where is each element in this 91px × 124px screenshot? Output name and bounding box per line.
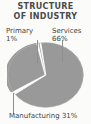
pie-chart xyxy=(7,42,84,108)
leader-line-services xyxy=(62,40,63,62)
slice-label-primary-name: Primary xyxy=(6,27,33,35)
chart-title-line-2: OF INDUSTRY xyxy=(0,12,91,22)
structure-of-industry-pie-figure: STRUCTURE OF INDUSTRY Primary 1% Service… xyxy=(0,0,91,124)
chart-title-line-1: STRUCTURE xyxy=(0,2,91,12)
slice-label-services: Services 66% xyxy=(52,28,82,43)
chart-title: STRUCTURE OF INDUSTRY xyxy=(0,2,91,22)
slice-label-services-name: Services xyxy=(52,27,82,35)
slice-label-primary-value: 1% xyxy=(6,36,33,44)
slice-label-manufacturing: Manufacturing 31% xyxy=(9,113,77,121)
leader-line-manufacturing xyxy=(13,93,14,114)
pie-chart-svg xyxy=(7,42,84,108)
slice-label-services-value: 66% xyxy=(52,36,82,44)
slice-label-manufacturing-text: Manufacturing 31% xyxy=(9,112,77,120)
slice-label-primary: Primary 1% xyxy=(6,28,33,43)
leader-line-primary xyxy=(37,40,38,63)
